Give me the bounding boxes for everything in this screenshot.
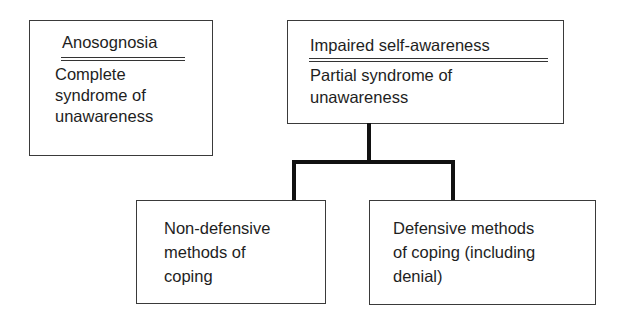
title-double-underline <box>309 61 548 62</box>
anosognosia-line-3: unawareness <box>55 106 153 126</box>
defensive-box: Defensive methods of coping (including d… <box>369 200 596 305</box>
impaired-line-1: Partial syndrome of <box>310 65 452 85</box>
defensive-line-1: Defensive methods <box>393 218 534 238</box>
anosognosia-box: Anosognosia Complete syndrome of unaware… <box>29 20 213 156</box>
anosognosia-line-2: syndrome of <box>55 85 146 105</box>
title-double-underline <box>61 57 185 58</box>
impaired-self-awareness-box: Impaired self-awareness Partial syndrome… <box>287 20 564 124</box>
title-double-underline <box>61 60 185 61</box>
defensive-line-2: of coping (including <box>393 242 535 262</box>
impaired-title: Impaired self-awareness <box>310 36 490 55</box>
connector-stem <box>367 123 371 163</box>
anosognosia-line-1: Complete <box>55 64 126 84</box>
non-defensive-line-2: methods of <box>164 242 246 262</box>
defensive-line-3: denial) <box>393 266 443 286</box>
anosognosia-title: Anosognosia <box>62 33 157 52</box>
non-defensive-line-3: coping <box>164 266 213 286</box>
connector-bar <box>292 160 455 164</box>
impaired-line-2: unawareness <box>310 87 408 107</box>
non-defensive-box: Non-defensive methods of coping <box>136 200 326 304</box>
non-defensive-line-1: Non-defensive <box>164 218 270 238</box>
title-double-underline <box>309 58 548 59</box>
connector-right-drop <box>451 160 455 201</box>
connector-left-drop <box>292 160 296 201</box>
